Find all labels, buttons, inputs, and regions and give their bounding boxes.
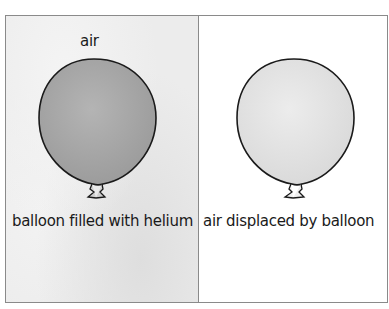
diagram-frame: air balloon filled with helium xyxy=(5,15,388,303)
displaced-air-caption: air displaced by balloon xyxy=(203,212,374,230)
displaced-air-balloon-icon xyxy=(199,16,389,216)
displaced-air-panel: air displaced by balloon xyxy=(198,16,387,302)
helium-balloon-icon xyxy=(6,16,198,216)
helium-balloon-panel: air balloon filled with helium xyxy=(6,16,198,302)
helium-balloon-caption: balloon filled with helium xyxy=(12,212,193,230)
